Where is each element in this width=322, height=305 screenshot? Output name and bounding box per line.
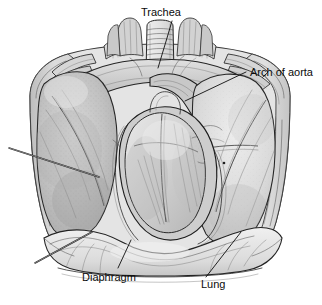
- label-arch-of-aorta: Arch of aorta: [250, 66, 314, 78]
- label-trachea: Trachea: [141, 6, 182, 18]
- thorax-illustration-figure: Trachea Arch of aorta Diaphragm Lung: [0, 0, 322, 305]
- illustration-canvas: Trachea Arch of aorta Diaphragm Lung: [0, 0, 322, 305]
- label-diaphragm: Diaphragm: [82, 271, 136, 283]
- label-lung: Lung: [201, 278, 225, 290]
